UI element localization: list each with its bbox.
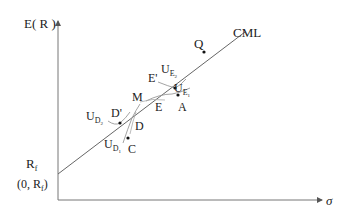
- point-d-prime: [118, 121, 121, 124]
- label-e-prime: E': [148, 71, 158, 85]
- label-ue2: UE2: [161, 62, 178, 79]
- label-a: A: [178, 100, 187, 114]
- label-ud2: UD2: [86, 109, 103, 126]
- label-q: Q: [194, 36, 204, 51]
- cml-label: CML: [233, 25, 261, 40]
- rf-coord-label: (0, Rf): [17, 177, 48, 193]
- label-c: C: [128, 142, 136, 156]
- label-d-prime: D': [111, 106, 122, 120]
- label-d: D: [135, 119, 144, 133]
- x-axis-label: σ: [326, 193, 333, 208]
- cml-line: [58, 32, 245, 174]
- rf-label: Rf: [26, 156, 38, 173]
- y-axis-label: E( R ): [24, 16, 56, 31]
- label-ud1: UD1: [104, 137, 121, 154]
- cml-diagram: E( R ) σ Rf (0, Rf) CML Q E' M D' E A D …: [0, 0, 347, 215]
- label-e: E: [155, 100, 162, 114]
- point-c: [126, 136, 129, 139]
- label-m: M: [132, 90, 143, 104]
